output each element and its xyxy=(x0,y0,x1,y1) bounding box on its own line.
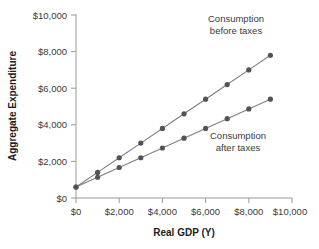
x-tick-label-2000: $2,000 xyxy=(105,206,134,217)
series-layer xyxy=(73,53,273,190)
data-point xyxy=(95,175,100,180)
data-point xyxy=(268,53,273,58)
y-tick-label-8000: $8,000 xyxy=(38,46,67,57)
before-taxes-label-line2: before taxes xyxy=(210,25,263,36)
x-tick-label-10000: $10,000 xyxy=(273,206,307,217)
data-point xyxy=(181,136,186,141)
y-tick-label-6000: $6,000 xyxy=(38,83,67,94)
y-tick-label-2000: $2,000 xyxy=(38,156,67,167)
series-line-0 xyxy=(76,55,270,187)
x-tick-label-0: $0 xyxy=(71,206,82,217)
data-point xyxy=(203,126,208,131)
data-point xyxy=(160,126,165,131)
data-point xyxy=(268,97,273,102)
x-tick-label-8000: $8,000 xyxy=(234,206,263,217)
y-tick-label-10000: $10,000 xyxy=(33,10,67,21)
data-point xyxy=(73,184,78,189)
chart-page: $0 $2,000 $4,000 $6,000 $8,000 $10,000 $… xyxy=(0,0,319,249)
y-tick-label-0: $0 xyxy=(56,193,67,204)
y-tick-label-4000: $4,000 xyxy=(38,119,67,130)
data-point xyxy=(160,145,165,150)
after-taxes-label-line2: after taxes xyxy=(216,142,261,153)
x-axis-title: Real GDP (Y) xyxy=(153,227,215,238)
data-point xyxy=(95,170,100,175)
data-point xyxy=(138,155,143,160)
y-axis-title: Aggregate Expenditure xyxy=(7,51,18,161)
data-point xyxy=(246,106,251,111)
before-taxes-label-line1: Consumption xyxy=(208,13,264,24)
data-point xyxy=(246,67,251,72)
x-tick-label-6000: $6,000 xyxy=(191,206,220,217)
data-point xyxy=(225,116,230,121)
data-point xyxy=(138,141,143,146)
aggregate-expenditure-chart: $0 $2,000 $4,000 $6,000 $8,000 $10,000 $… xyxy=(0,0,319,249)
x-tick-label-4000: $4,000 xyxy=(148,206,177,217)
data-point xyxy=(117,165,122,170)
data-point xyxy=(225,82,230,87)
data-point xyxy=(203,97,208,102)
data-point xyxy=(181,111,186,116)
after-taxes-label-line1: Consumption xyxy=(210,130,266,141)
data-point xyxy=(117,155,122,160)
